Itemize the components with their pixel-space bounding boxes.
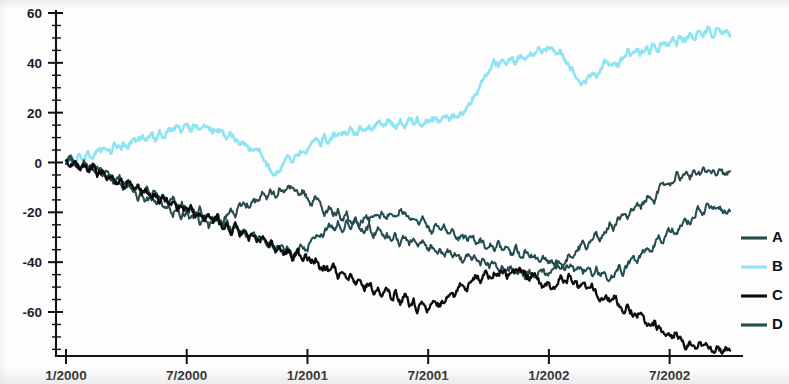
y-tick-label: 20 [27,106,42,121]
legend-label-d: D [772,315,783,332]
x-tick-label: 1/2002 [528,368,569,383]
x-tick-label: 7/2001 [408,368,450,383]
x-tick-label: 1/2000 [45,368,86,383]
y-tick-label: 40 [27,56,42,71]
legend-label-a: A [772,228,783,245]
y-tick-label: 0 [34,156,42,171]
y-tick-label: -40 [22,255,42,270]
chart-svg: 6040200-20-40-60 1/20007/20001/20017/200… [0,0,789,384]
y-tick-label: -60 [22,305,42,320]
x-tick-label: 1/2001 [287,368,329,383]
y-tick-label: 60 [27,6,42,21]
chart-background [0,0,789,384]
y-tick-label: -20 [22,205,42,220]
legend-label-c: C [772,286,783,303]
x-tick-label: 7/2002 [649,368,690,383]
x-tick-label: 7/2000 [166,368,207,383]
legend-label-b: B [772,257,783,274]
line-chart-figure: 6040200-20-40-60 1/20007/20001/20017/200… [0,0,789,384]
